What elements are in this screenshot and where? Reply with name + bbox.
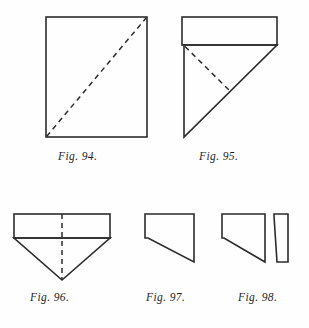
figure-98-caption: Fig. 98. [238,291,277,303]
figure-95-drawing [182,17,277,137]
fig95-top-rectangle [182,17,277,45]
figure-plate: Fig. 94. Fig. 95. Fig. 96. Fig. 97. Fig.… [0,0,309,328]
fig98-trapezoid-outline [222,214,265,262]
figure-96-drawing [14,214,110,280]
figure-98-drawing [222,214,288,262]
fig94-dashed-diagonal-fold [47,18,147,137]
figure-97-caption: Fig. 97. [146,291,185,303]
figure-illustration-svg [0,0,309,328]
figure-94-drawing [46,17,147,137]
figure-95-caption: Fig. 95. [199,150,238,162]
figure-96-caption: Fig. 96. [30,291,69,303]
fig97-trapezoid-outline [145,214,194,262]
fig95-triangle-outline [184,45,277,137]
fig98-cut-strip-outline [274,214,288,262]
fig95-dashed-fold [185,47,231,92]
figure-94-caption: Fig. 94. [58,150,97,162]
figure-97-drawing [145,214,194,262]
